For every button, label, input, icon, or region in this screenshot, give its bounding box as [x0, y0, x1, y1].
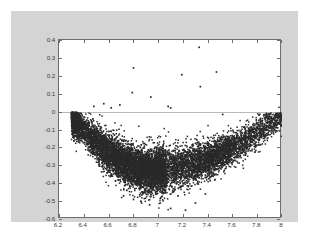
- y-tick-label: 0.3: [47, 53, 55, 60]
- x-tick-mark: [133, 214, 134, 217]
- x-tick-mark: [84, 214, 85, 217]
- y-tick-mark: [277, 112, 280, 113]
- x-tick-label: 6.8: [128, 221, 136, 228]
- y-tick-label: -0.3: [45, 161, 55, 168]
- x-tick-mark: [257, 214, 258, 217]
- x-tick-mark: [59, 214, 60, 217]
- x-tick-mark: [133, 40, 134, 43]
- y-tick-mark: [277, 130, 280, 131]
- y-tick-mark: [59, 147, 62, 148]
- y-tick-mark: [277, 201, 280, 202]
- x-tick-mark: [84, 40, 85, 43]
- x-tick-label: 6.4: [79, 221, 87, 228]
- x-tick-label: 7: [155, 221, 158, 228]
- y-tick-mark: [59, 165, 62, 166]
- y-tick-mark: [59, 76, 62, 77]
- x-tick-mark: [109, 40, 110, 43]
- y-tick-mark: [277, 58, 280, 59]
- plot-area[interactable]: [58, 39, 281, 218]
- x-tick-mark: [208, 40, 209, 43]
- y-tick-mark: [277, 219, 280, 220]
- y-tick-mark: [277, 183, 280, 184]
- y-tick-mark: [59, 219, 62, 220]
- y-tick-mark: [277, 40, 280, 41]
- figure-background: 0.40.30.20.10-0.1-0.2-0.3-0.4-0.5-0.6 6.…: [11, 11, 298, 222]
- y-tick-label: -0.5: [45, 197, 55, 204]
- y-tick-mark: [277, 94, 280, 95]
- x-tick-mark: [183, 214, 184, 217]
- x-tick-mark: [232, 40, 233, 43]
- scatter-plot-canvas[interactable]: [59, 40, 282, 219]
- y-tick-mark: [59, 58, 62, 59]
- x-tick-mark: [257, 40, 258, 43]
- y-tick-label: 0.4: [47, 36, 55, 43]
- y-tick-mark: [277, 76, 280, 77]
- x-axis-tick-labels: 6.26.46.66.877.27.47.67.88: [58, 221, 281, 233]
- y-tick-label: -0.1: [45, 125, 55, 132]
- x-tick-mark: [109, 214, 110, 217]
- y-tick-mark: [277, 147, 280, 148]
- x-tick-label: 7.4: [203, 221, 211, 228]
- y-tick-label: 0.1: [47, 89, 55, 96]
- y-tick-mark: [59, 94, 62, 95]
- x-tick-mark: [158, 214, 159, 217]
- y-tick-label: 0.2: [47, 71, 55, 78]
- x-tick-label: 8: [279, 221, 282, 228]
- x-tick-mark: [59, 40, 60, 43]
- x-tick-label: 7.8: [252, 221, 260, 228]
- y-tick-mark: [277, 165, 280, 166]
- x-tick-mark: [281, 40, 282, 43]
- x-tick-label: 7.6: [227, 221, 235, 228]
- y-tick-mark: [59, 183, 62, 184]
- y-tick-label: 0: [52, 107, 55, 114]
- x-tick-mark: [158, 40, 159, 43]
- y-tick-label: -0.2: [45, 143, 55, 150]
- x-tick-mark: [183, 40, 184, 43]
- y-tick-mark: [59, 112, 62, 113]
- y-tick-mark: [59, 130, 62, 131]
- x-tick-mark: [232, 214, 233, 217]
- x-tick-label: 6.2: [54, 221, 62, 228]
- x-tick-mark: [281, 214, 282, 217]
- x-tick-label: 7.2: [178, 221, 186, 228]
- y-axis-tick-labels: 0.40.30.20.10-0.1-0.2-0.3-0.4-0.5-0.6: [31, 39, 55, 218]
- x-tick-mark: [208, 214, 209, 217]
- y-tick-label: -0.4: [45, 179, 55, 186]
- x-tick-label: 6.6: [103, 221, 111, 228]
- y-tick-mark: [59, 201, 62, 202]
